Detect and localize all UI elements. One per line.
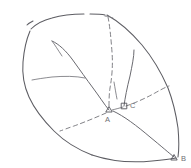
sketch-diagram-canvas: A C B (0, 0, 191, 168)
sketch-svg: A C B (0, 0, 191, 168)
outer-boundary-top-path (31, 14, 84, 29)
outer-boundary-top-right-path (90, 14, 105, 15)
outer-boundary-break-segment (27, 21, 33, 25)
point-label-a: A (105, 115, 110, 124)
main-channel-path (52, 41, 109, 110)
dashed-divide-top-path (108, 17, 112, 108)
dashed-divide-lower-path (60, 113, 106, 131)
right-tributary-path (124, 50, 134, 106)
point-label-b: B (181, 154, 186, 163)
outer-boundary-bottom-path (92, 155, 176, 162)
point-label-c: C (130, 101, 136, 110)
mid-tributary-path (32, 76, 85, 80)
right-tributary-branch-path (114, 82, 117, 99)
outflow-channel-path (113, 111, 174, 157)
